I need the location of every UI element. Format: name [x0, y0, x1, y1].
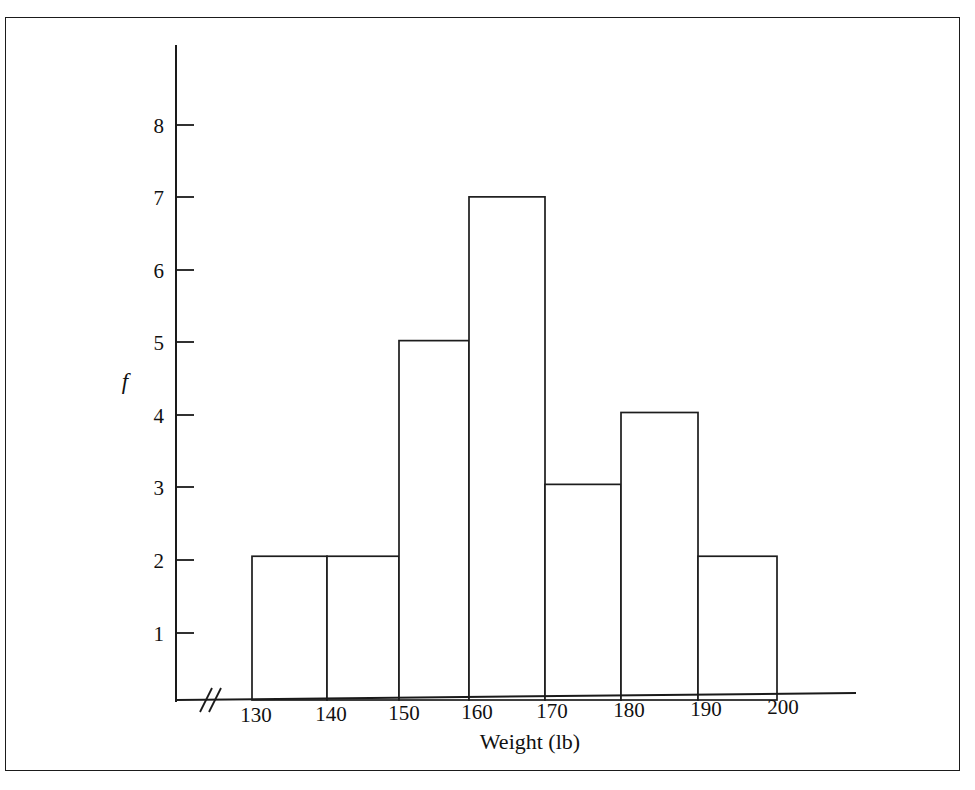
- y-axis-ticks: [176, 125, 194, 633]
- x-tick-label: 130: [240, 703, 272, 727]
- histogram-bar: [621, 413, 698, 701]
- x-tick-label: 150: [388, 701, 420, 725]
- histogram-bar: [545, 484, 621, 700]
- y-axis-tick-labels: 1 2 3 4 5 6 7 8: [154, 114, 165, 646]
- y-tick-label: 1: [154, 622, 165, 646]
- y-tick-label: 8: [154, 114, 165, 138]
- histogram-bar: [327, 556, 399, 700]
- histogram-bar: [698, 556, 777, 700]
- y-axis-title: f: [122, 369, 132, 394]
- figure-page: 1 2 3 4 5 6 7 8 f: [0, 0, 975, 790]
- histogram-svg: 1 2 3 4 5 6 7 8 f: [0, 0, 975, 790]
- bars-group: [252, 197, 777, 700]
- y-tick-label: 2: [154, 549, 165, 573]
- histogram-bar: [252, 556, 327, 700]
- x-tick-label: 140: [315, 702, 347, 726]
- y-tick-label: 4: [154, 404, 165, 428]
- y-tick-label: 3: [154, 476, 165, 500]
- y-tick-label: 5: [154, 331, 165, 355]
- y-tick-label: 6: [154, 259, 165, 283]
- histogram-bar: [469, 197, 545, 700]
- histogram-bar: [399, 341, 469, 700]
- x-axis-title: Weight (lb): [480, 729, 580, 754]
- x-tick-label: 160: [461, 700, 493, 724]
- x-tick-label: 190: [690, 697, 722, 721]
- x-tick-label: 180: [613, 698, 645, 722]
- x-tick-label: 170: [536, 699, 568, 723]
- histogram-figure: 1 2 3 4 5 6 7 8 f: [0, 0, 975, 790]
- x-tick-label: 200: [767, 695, 799, 719]
- y-tick-label: 7: [154, 186, 165, 210]
